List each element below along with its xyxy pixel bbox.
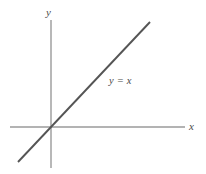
line-equation-label: y = x xyxy=(109,76,132,87)
line-graph-figure: y x y = x xyxy=(0,0,206,174)
x-axis-label: x xyxy=(189,121,194,132)
y-axis-label: y xyxy=(46,7,51,18)
plot-canvas xyxy=(0,0,206,174)
